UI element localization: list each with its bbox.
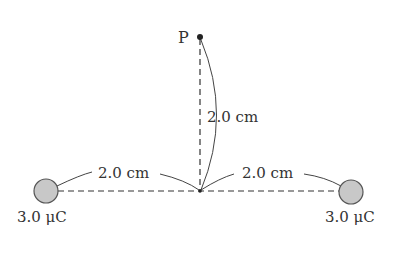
right-distance-label: 2.0 cm [242,164,293,182]
vertical-distance-label: 2.0 cm [207,108,258,126]
diagram-canvas: P 2.0 cm 2.0 cm 2.0 cm 3.0 μC 3.0 μC [0,0,400,254]
point-p-label: P [178,28,189,47]
point-p-marker [197,34,203,40]
origin-marker [198,189,202,193]
left-dimension-arc-b [160,174,199,190]
right-dimension-arc-b [304,174,341,186]
right-charge [339,180,363,204]
left-charge-label: 3.0 μC [17,208,67,226]
right-charge-label: 3.0 μC [325,208,375,226]
left-charge [34,179,58,203]
left-dimension-arc-a [57,172,92,186]
left-distance-label: 2.0 cm [98,164,149,182]
